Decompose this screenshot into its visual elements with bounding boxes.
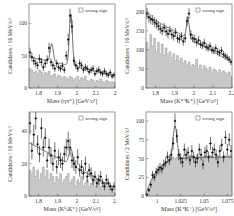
legend: wrong sign: [196, 116, 225, 121]
y-tick-label: 100: [136, 47, 145, 53]
legend-swatch: [196, 116, 200, 120]
x-tick-label: 1.9: [54, 90, 61, 96]
x-tick-label: 2.2: [229, 90, 234, 96]
chart-top-left: 1.81.922.12050100Mass (ηπ⁺) [GeV/c²]Cand…: [0, 0, 117, 108]
legend-swatch: [196, 8, 200, 12]
x-tick-label: 1.075: [221, 198, 234, 204]
panel-bottom-left: 1.81.922.12.02040Mass (K⁰ₛK⁺) [GeV/c²]Ca…: [0, 108, 117, 216]
y-tick-label: 200: [136, 9, 145, 15]
legend-label: wrong sign: [85, 116, 108, 121]
y-axis-label: Candidates / 10 MeV/c²: [7, 18, 13, 74]
legend: wrong sign: [196, 8, 225, 13]
x-tick-label: 1.8: [35, 90, 42, 96]
x-tick-label: 1.9: [54, 198, 61, 204]
x-tick-label: 2: [75, 198, 78, 204]
x-axis-label: Mass (K*⁰K⁺) [GeV/c²]: [160, 98, 218, 105]
y-tick-label: 0: [141, 193, 144, 199]
x-tick-label: 2: [192, 90, 195, 96]
y-tick-label: 20: [22, 161, 28, 167]
legend-label: wrong sign: [202, 8, 225, 13]
legend-swatch: [79, 116, 83, 120]
x-axis-label: Mass (K⁺K⁻) [GeV/c²]: [161, 206, 217, 213]
y-tick-label: 25: [139, 174, 145, 180]
legend: wrong sign: [79, 8, 108, 13]
wrong-sign-histogram: [146, 156, 232, 197]
y-axis-label: Candidates / 10 MeV/c²: [7, 126, 13, 182]
wrong-sign-histogram: [146, 35, 232, 88]
y-tick-label: 0: [24, 85, 27, 91]
y-tick-label: 40: [22, 128, 28, 134]
chart-top-right: 1.81.922.12.2050100150200Mass (K*⁰K⁺) [G…: [117, 0, 234, 108]
chart-bottom-left: 1.81.922.12.02040Mass (K⁰ₛK⁺) [GeV/c²]Ca…: [0, 108, 117, 216]
x-tick-label: 1.8: [35, 198, 42, 204]
x-tick-label: 2: [75, 90, 78, 96]
y-tick-label: 100: [136, 118, 145, 124]
x-tick-label: 1.9: [171, 90, 178, 96]
panel-top-left: 1.81.922.12050100Mass (ηπ⁺) [GeV/c²]Cand…: [0, 0, 117, 108]
x-tick-label: 1: [156, 198, 159, 204]
legend-label: wrong sign: [85, 8, 108, 13]
legend-swatch: [79, 8, 83, 12]
legend: wrong sign: [79, 116, 108, 121]
x-tick-label: 1.8: [152, 90, 159, 96]
y-tick-label: 150: [136, 28, 145, 34]
y-axis-label: Candidates / 2 MeV/c²: [124, 128, 130, 181]
y-axis-label: Candidates / 10 MeV/c²: [124, 18, 130, 74]
x-axis-label: Mass (ηπ⁺) [GeV/c²]: [47, 98, 97, 105]
data-points: [29, 9, 115, 79]
x-tick-label: 2.1: [92, 90, 99, 96]
panel-bottom-right: 11.0251.051.0750255075100Mass (K⁺K⁻) [Ge…: [117, 108, 234, 216]
x-tick-label: 2.1: [92, 198, 99, 204]
x-tick-label: 1.05: [199, 198, 209, 204]
y-tick-label: 50: [22, 53, 28, 59]
y-tick-label: 50: [139, 156, 145, 162]
x-tick-label: 1.025: [174, 198, 187, 204]
wrong-sign-histogram: [29, 69, 115, 88]
y-tick-label: 0: [24, 193, 27, 199]
y-tick-label: 50: [139, 66, 145, 72]
legend-label: wrong sign: [202, 116, 225, 121]
x-axis-label: Mass (K⁰ₛK⁺) [GeV/c²]: [44, 206, 101, 213]
x-tick-label: 2.1: [209, 90, 216, 96]
y-tick-label: 0: [141, 85, 144, 91]
y-tick-label: 75: [139, 137, 145, 143]
panel-top-right: 1.81.922.12.2050100150200Mass (K*⁰K⁺) [G…: [117, 0, 234, 108]
chart-bottom-right: 11.0251.051.0750255075100Mass (K⁺K⁻) [Ge…: [117, 108, 234, 216]
y-tick-label: 100: [19, 20, 28, 26]
